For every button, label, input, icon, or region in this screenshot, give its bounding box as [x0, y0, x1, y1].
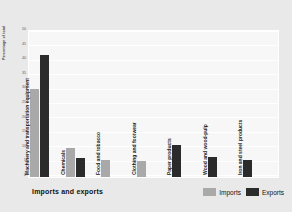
category-label: Iron and steel products — [238, 120, 243, 175]
category-label: Clothing and footwear — [132, 122, 137, 175]
category-label: Wood and wood-pulp — [203, 124, 208, 175]
legend-item-exports: Exports — [246, 188, 284, 196]
chart-title: Imports and exports — [32, 188, 103, 195]
y-tick-label: 35 — [10, 72, 26, 76]
y-tick-label: 50 — [10, 28, 26, 32]
category-label: Food and tobacco — [96, 132, 101, 175]
legend-label-imports: Imports — [219, 189, 241, 196]
y-tick-label: 45 — [10, 43, 26, 47]
chart-figure: 50454035302520151050 Percentage of total… — [0, 0, 292, 212]
bar-exports — [40, 55, 49, 177]
category-label: Chemicals — [61, 150, 66, 175]
bar-imports — [137, 161, 146, 177]
y-axis-label: Percentage of total — [2, 0, 6, 60]
bar-imports — [101, 160, 110, 177]
legend-swatch-exports — [246, 188, 259, 196]
bar-exports — [208, 157, 217, 177]
legend-label-exports: Exports — [262, 189, 284, 196]
category-label: Paper products — [167, 138, 172, 175]
y-axis-tick-labels: 50454035302520151050 — [6, 30, 26, 178]
bar-imports — [30, 89, 39, 177]
bar-series-container: Machinery and transportation equipmentCh… — [29, 31, 278, 177]
category-label: Machinery and transportation equipment — [25, 78, 30, 175]
y-tick-label: 40 — [10, 57, 26, 61]
legend-swatch-imports — [203, 188, 216, 196]
bar-imports — [66, 148, 75, 177]
bar-group: Iron and steel products — [242, 31, 278, 177]
bar-exports — [243, 160, 252, 177]
legend-item-imports: Imports — [203, 188, 241, 196]
chart-legend: Imports Exports — [203, 188, 284, 196]
bar-exports — [172, 145, 181, 177]
bar-exports — [76, 158, 85, 177]
